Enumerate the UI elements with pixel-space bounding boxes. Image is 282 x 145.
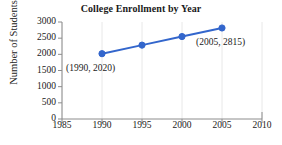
x-tick-label: 1995 [122,121,162,131]
data-point-marker[interactable] [139,42,145,48]
data-point-marker[interactable] [219,25,225,31]
x-tick-label: 2010 [242,121,282,131]
data-point-marker[interactable] [179,33,185,39]
data-point-annotation: (2005, 2815) [196,38,245,48]
x-tick-label: 2000 [162,121,202,131]
x-tick-label: 2005 [202,121,242,131]
x-tick-label: 1985 [42,121,82,131]
data-point-marker[interactable] [99,51,105,57]
chart-container: College Enrollment by Year Number of Stu… [0,0,282,145]
x-tick-label: 1990 [82,121,122,131]
data-point-annotation: (1990, 2020) [66,64,115,74]
